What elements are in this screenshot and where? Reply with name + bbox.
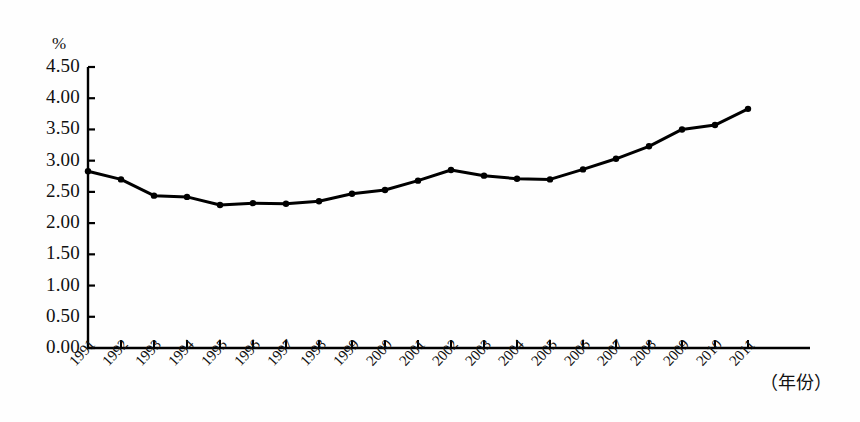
data-point-marker bbox=[547, 176, 553, 182]
data-point-marker bbox=[745, 106, 751, 112]
y-tick-label: 4.00 bbox=[0, 86, 80, 108]
y-tick-label: 1.50 bbox=[0, 242, 80, 264]
chart-figure: % 0.000.501.001.502.002.503.003.504.004.… bbox=[0, 0, 860, 422]
series-line bbox=[88, 109, 748, 205]
data-point-marker bbox=[217, 202, 223, 208]
data-point-marker bbox=[448, 167, 454, 173]
data-point-marker bbox=[415, 177, 421, 183]
data-point-marker bbox=[712, 122, 718, 128]
data-point-marker bbox=[118, 176, 124, 182]
axes bbox=[88, 67, 810, 348]
data-point-marker bbox=[250, 200, 256, 206]
data-point-marker bbox=[613, 156, 619, 162]
data-point-marker bbox=[646, 143, 652, 149]
y-tick-label: 2.50 bbox=[0, 180, 80, 202]
data-point-marker bbox=[514, 176, 520, 182]
y-tick-label: 0.50 bbox=[0, 305, 80, 327]
data-series bbox=[88, 109, 748, 205]
data-point-marker bbox=[184, 194, 190, 200]
data-point-marker bbox=[349, 191, 355, 197]
data-point-marker bbox=[85, 168, 91, 174]
y-tick-label: 3.00 bbox=[0, 149, 80, 171]
y-tick-label: 4.50 bbox=[0, 55, 80, 77]
data-point-marker bbox=[316, 198, 322, 204]
data-point-marker bbox=[283, 201, 289, 207]
y-tick-label: 2.00 bbox=[0, 211, 80, 233]
axis-spines bbox=[88, 67, 810, 348]
data-point-markers bbox=[85, 106, 751, 209]
data-point-marker bbox=[481, 172, 487, 178]
x-axis-title: （年份） bbox=[760, 368, 832, 394]
data-point-marker bbox=[151, 192, 157, 198]
data-point-marker bbox=[679, 126, 685, 132]
data-point-marker bbox=[580, 166, 586, 172]
data-point-marker bbox=[382, 187, 388, 193]
y-tick-label: 1.00 bbox=[0, 274, 80, 296]
y-tick-label: 3.50 bbox=[0, 117, 80, 139]
